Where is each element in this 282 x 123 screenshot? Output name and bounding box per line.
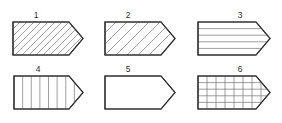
shape-label-4: 4 <box>36 64 41 74</box>
shape-4 <box>14 76 83 109</box>
shape-label-6: 6 <box>238 64 243 74</box>
shape-label-3: 3 <box>238 10 243 20</box>
shape-outline-3 <box>198 22 270 55</box>
shape-3 <box>198 22 270 55</box>
shape-label-1: 1 <box>34 10 39 20</box>
shape-pattern-figure: 123456 <box>0 0 282 123</box>
shape-label-2: 2 <box>126 10 131 20</box>
shapes-layer <box>0 22 270 109</box>
shape-5 <box>105 76 175 109</box>
shape-6 <box>198 76 270 109</box>
hatch-line <box>0 22 13 55</box>
shape-label-5: 5 <box>126 64 131 74</box>
figure-container: 123456 <box>0 0 282 123</box>
